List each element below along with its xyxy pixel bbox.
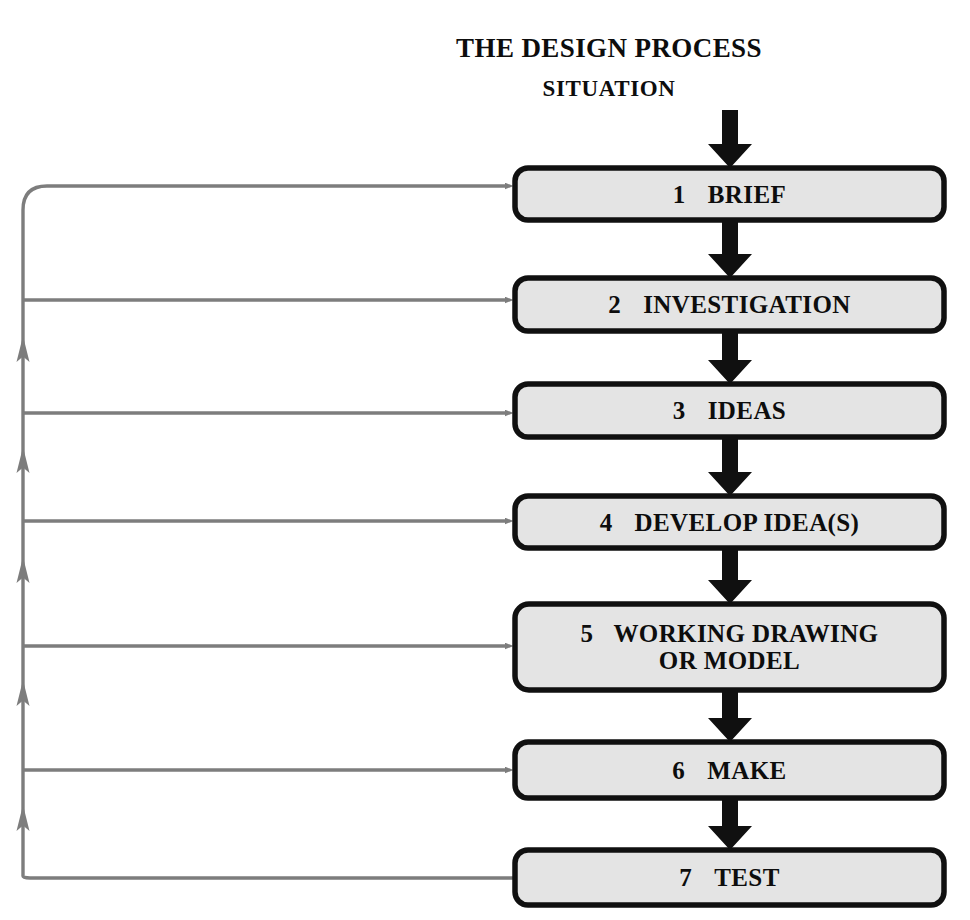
step-box-1[interactable]: [515, 168, 944, 220]
flow-arrow-develop-to-working-drawing: [708, 548, 752, 604]
step-box-7[interactable]: [515, 850, 944, 905]
step-boxes: [515, 168, 944, 905]
flow-arrow-make-to-test: [708, 798, 752, 850]
step-box-2[interactable]: [515, 278, 944, 331]
step-box-3[interactable]: [515, 384, 944, 437]
step-box-5[interactable]: [515, 604, 944, 690]
flow-arrow-brief-to-investigation: [708, 220, 752, 278]
flow-arrow-investigation-to-ideas: [708, 331, 752, 384]
step-box-6[interactable]: [515, 742, 944, 798]
flow-arrow-situation-to-brief: [708, 110, 752, 168]
feedback-loop-group: [23, 186, 513, 878]
situation-label: SITUATION: [0, 76, 970, 102]
flow-arrow-working-drawing-to-make: [708, 690, 752, 742]
page-title: THE DESIGN PROCESS: [0, 33, 970, 64]
design-process-diagram: THE DESIGN PROCESS SITUATION 1BRIEF 2INV…: [0, 0, 970, 920]
feedback-return-from-test: [23, 876, 513, 878]
step-box-4[interactable]: [515, 496, 944, 548]
feedback-branch-to-brief: [23, 186, 505, 210]
diagram-canvas: [0, 0, 970, 920]
flow-arrow-ideas-to-develop: [708, 437, 752, 496]
